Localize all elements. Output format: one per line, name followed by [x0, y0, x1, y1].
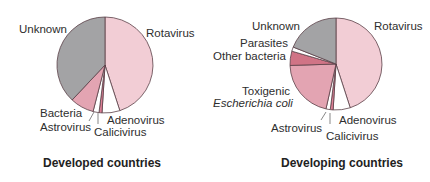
label-calicivirus-right: Calicivirus: [326, 130, 379, 142]
label-rotavirus-right: Rotavirus: [374, 20, 423, 32]
label-toxigenic-right: Toxigenic: [242, 85, 290, 97]
label-rotavirus-left: Rotavirus: [146, 27, 195, 39]
label-adenovirus-left: Adenovirus: [107, 114, 165, 126]
pie-developed-countries: [57, 17, 153, 113]
label-ecoli-right: Escherichia coli: [213, 97, 293, 109]
pie-developing-countries: [290, 18, 382, 110]
title-developed-countries: Developed countries: [43, 156, 161, 170]
label-calicivirus-left: Calicivirus: [94, 126, 147, 138]
label-unknown-left: Unknown: [19, 23, 67, 35]
label-adenovirus-right: Adenovirus: [339, 114, 397, 126]
chart-canvas: Unknown Rotavirus Bacteria Astrovirus Ad…: [0, 0, 430, 182]
label-astrovirus-right: Astrovirus: [271, 122, 322, 134]
label-parasites-right: Parasites: [240, 37, 288, 49]
leader-astrovirus-right: [321, 112, 326, 120]
leader-astrovirus-left: [89, 112, 94, 121]
label-other-bacteria-right: Other bacteria: [213, 50, 286, 62]
label-bacteria-left: Bacteria: [40, 107, 83, 119]
label-astrovirus-left: Astrovirus: [40, 121, 91, 133]
label-unknown-right: Unknown: [252, 20, 300, 32]
right-leader-lines: [321, 112, 330, 124]
title-developing-countries: Developing countries: [281, 156, 403, 170]
